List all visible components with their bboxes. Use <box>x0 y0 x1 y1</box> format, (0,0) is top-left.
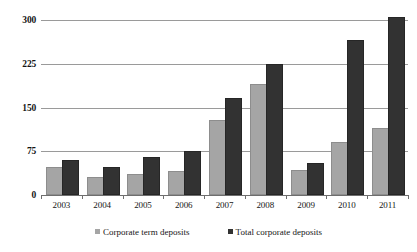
bar <box>168 171 185 195</box>
bar <box>388 17 405 195</box>
y-tick-label-300: 300 <box>2 15 36 25</box>
x-tick-label-2007: 2007 <box>204 199 245 211</box>
bar-chart: 075150225300 200320042005200620072008200… <box>0 0 417 252</box>
x-tick-label-2011: 2011 <box>367 199 408 211</box>
x-tick-label-2010: 2010 <box>326 199 367 211</box>
bar-group <box>245 20 286 195</box>
x-tick-label-2004: 2004 <box>82 199 123 211</box>
bar-group <box>326 20 367 195</box>
square-gray-marker <box>95 229 100 234</box>
x-tick-label-2003: 2003 <box>41 199 82 211</box>
bar <box>127 174 144 195</box>
y-tick-label-0: 0 <box>2 190 36 200</box>
y-tick-label-225: 225 <box>2 59 36 69</box>
bar <box>46 167 63 195</box>
bar <box>184 151 201 195</box>
legend-label: Total corporate deposits <box>236 227 322 238</box>
bar <box>103 167 120 195</box>
bar <box>372 128 389 195</box>
x-tick-mark <box>408 195 409 199</box>
chart-legend: Corporate term depositsTotal corporate d… <box>0 224 417 240</box>
x-tick-label-2005: 2005 <box>123 199 164 211</box>
x-tick-label-2009: 2009 <box>286 199 327 211</box>
bar-group <box>204 20 245 195</box>
y-tick-label-75: 75 <box>2 146 36 156</box>
bar-group <box>82 20 123 195</box>
legend-item[interactable]: Corporate term deposits <box>95 227 189 238</box>
bar-group <box>41 20 82 195</box>
bar <box>291 170 308 195</box>
bar <box>87 177 104 195</box>
bar-group <box>163 20 204 195</box>
bar-group <box>367 20 408 195</box>
bar-group <box>123 20 164 195</box>
legend-item[interactable]: Total corporate deposits <box>228 227 322 238</box>
bar <box>62 160 79 195</box>
square-dark-marker <box>228 229 233 234</box>
bar <box>225 98 242 195</box>
bar <box>209 120 226 195</box>
bar-group <box>286 20 327 195</box>
bar <box>331 142 348 195</box>
legend-label: Corporate term deposits <box>103 227 189 238</box>
y-tick-label-150: 150 <box>2 103 36 113</box>
bar <box>250 84 267 195</box>
bar <box>143 157 160 195</box>
x-tick-label-2006: 2006 <box>163 199 204 211</box>
bars-layer <box>41 20 408 195</box>
y-axis-tick-labels: 075150225300 <box>0 20 36 195</box>
bar <box>266 64 283 195</box>
bar <box>347 40 364 195</box>
x-axis: 200320042005200620072008200920102011 <box>41 195 408 213</box>
bar <box>307 163 324 195</box>
x-tick-label-2008: 2008 <box>245 199 286 211</box>
